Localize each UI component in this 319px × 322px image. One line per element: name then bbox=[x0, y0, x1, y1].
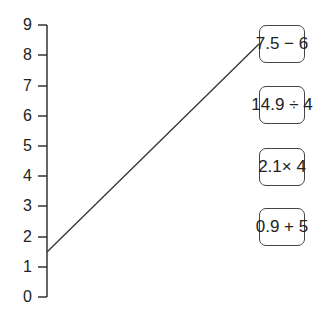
expression-label: 14.9 ÷ 4 bbox=[251, 95, 312, 115]
tick-label-9: 9 bbox=[12, 17, 32, 33]
expression-box-4[interactable]: 0.9 + 5 bbox=[259, 208, 305, 246]
tick-label-0: 0 bbox=[12, 289, 32, 305]
connection-line[interactable] bbox=[47, 44, 259, 252]
tick-label-1: 1 bbox=[12, 259, 32, 275]
tick-label-6: 6 bbox=[12, 108, 32, 124]
expression-box-2[interactable]: 14.9 ÷ 4 bbox=[259, 86, 305, 124]
expression-box-3[interactable]: 2.1× 4 bbox=[259, 148, 305, 186]
tick-label-7: 7 bbox=[12, 78, 32, 94]
tick-label-2: 2 bbox=[12, 229, 32, 245]
expression-box-1[interactable]: 7.5 − 6 bbox=[259, 25, 305, 63]
tick-marks bbox=[38, 25, 47, 297]
expression-label: 2.1× 4 bbox=[258, 157, 306, 177]
tick-label-3: 3 bbox=[12, 198, 32, 214]
expression-label: 7.5 − 6 bbox=[256, 34, 308, 54]
tick-label-5: 5 bbox=[12, 138, 32, 154]
tick-label-4: 4 bbox=[12, 168, 32, 184]
expression-label: 0.9 + 5 bbox=[256, 217, 308, 237]
tick-label-8: 8 bbox=[12, 47, 32, 63]
